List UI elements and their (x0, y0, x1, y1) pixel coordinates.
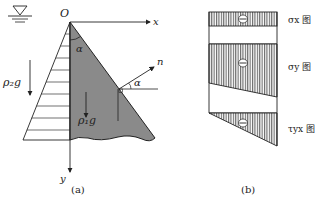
panel-a: O x y n α α ρ₂g ρ₁g (a) (2, 6, 163, 195)
water-surface-icon (8, 6, 32, 22)
panel-b: σx 图 σy 图 τyx 图 (b) (209, 12, 315, 195)
minus-sign-icon (239, 15, 248, 23)
caption-a: (a) (71, 184, 85, 195)
minus-sign-icon (239, 119, 248, 127)
x-axis-label: x (153, 16, 159, 27)
dam-density-label: ρ₁g (77, 114, 96, 127)
angle-label-normal: α (134, 77, 141, 88)
caption-b: (b) (241, 184, 255, 195)
sigma-y-diagram (209, 44, 277, 97)
angle-arc-normal (129, 83, 132, 89)
sigma-x-label: σx 图 (288, 15, 311, 25)
angle-label-top: α (76, 43, 83, 54)
origin-label: O (60, 7, 69, 20)
normal-label: n (157, 56, 163, 67)
y-axis-label: y (59, 173, 66, 184)
tau-yx-diagram (209, 113, 277, 146)
sigma-y-label: σy 图 (288, 62, 311, 72)
diagram-canvas: O x y n α α ρ₂g ρ₁g (a) (0, 0, 316, 204)
water-density-label: ρ₂g (2, 76, 21, 89)
minus-sign-icon (239, 59, 248, 67)
tau-yx-label: τyx 图 (288, 124, 315, 134)
